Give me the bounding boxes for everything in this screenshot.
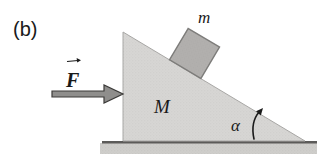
wedge-mass-label: M [153,96,171,117]
force-vector-label: F [65,69,80,91]
block-mass-label: m [198,8,210,27]
physics-diagram-wedge-block: F M m α (b) [0,0,317,156]
incline-angle-label: α [231,116,241,135]
panel-label: (b) [13,18,37,40]
ground-texture [100,143,317,154]
